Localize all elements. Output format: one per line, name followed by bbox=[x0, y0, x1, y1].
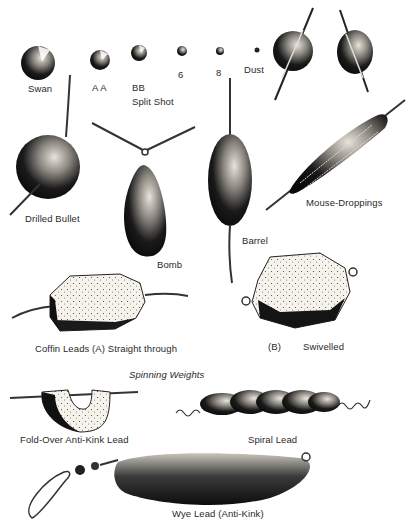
fishing-weights-drawing bbox=[0, 0, 409, 530]
label-coffin-b-marker: (B) bbox=[268, 341, 281, 352]
split-shot-8-icon bbox=[216, 47, 224, 55]
label-dust: Dust bbox=[244, 64, 264, 75]
mouse-droppings-icon bbox=[266, 100, 405, 210]
split-shot-on-line-icon bbox=[273, 8, 313, 100]
barrel-icon bbox=[208, 78, 252, 283]
split-shot-bb-icon bbox=[131, 45, 147, 61]
label-bb: BB bbox=[132, 82, 145, 93]
wye-lead-icon bbox=[29, 453, 310, 518]
label-swan: Swan bbox=[28, 83, 52, 94]
label-wye-lead: Wye Lead (Anti-Kink) bbox=[172, 508, 264, 519]
split-shot-swan-icon bbox=[21, 46, 55, 80]
spiral-lead-icon bbox=[176, 390, 370, 416]
label-bomb: Bomb bbox=[157, 259, 182, 270]
split-shot-on-line-icon-2 bbox=[337, 10, 373, 92]
split-shot-dust-icon bbox=[255, 48, 260, 53]
drilled-bullet-icon bbox=[10, 75, 80, 215]
label-mouse-droppings: Mouse-Droppings bbox=[306, 197, 382, 208]
fold-over-lead-icon bbox=[10, 390, 138, 432]
label-drilled-bullet: Drilled Bullet bbox=[25, 213, 80, 224]
coffin-lead-a-icon bbox=[12, 274, 188, 331]
coffin-lead-b-icon bbox=[242, 253, 357, 328]
label-split-shot: Split Shot bbox=[132, 96, 174, 107]
label-6: 6 bbox=[178, 69, 183, 80]
split-shot-6-icon bbox=[177, 46, 187, 56]
section-heading-spinning-weights: Spinning Weights bbox=[129, 369, 204, 380]
label-swivelled: Swivelled bbox=[303, 341, 344, 352]
label-barrel: Barrel bbox=[242, 235, 268, 246]
label-coffin-lead-a: Coffin Leads (A) Straight through bbox=[35, 343, 177, 354]
label-spiral-lead: Spiral Lead bbox=[248, 434, 297, 445]
label-8: 8 bbox=[216, 67, 221, 78]
label-aa: A A bbox=[92, 82, 107, 93]
bomb-icon bbox=[92, 123, 195, 257]
label-fold-over: Fold-Over Anti-Kink Lead bbox=[20, 434, 129, 445]
split-shot-aa-icon bbox=[90, 50, 110, 70]
illustration-canvas: Swan A A BB 6 8 Dust Split Shot Drilled … bbox=[0, 0, 409, 530]
